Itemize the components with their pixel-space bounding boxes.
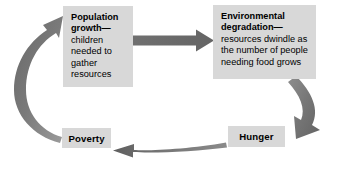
- node-population-growth: Population growth— children needed to ga…: [63, 6, 133, 87]
- node-population-growth-body: children needed to gather resources: [71, 35, 126, 81]
- arrow-population-to-environment: [133, 30, 214, 52]
- node-population-growth-title: Population growth—: [71, 12, 126, 35]
- node-environmental-degradation-title: Environmental degradation—: [221, 11, 309, 34]
- cycle-diagram: Population growth— children needed to ga…: [0, 0, 347, 169]
- node-poverty: Poverty: [62, 128, 111, 148]
- node-hunger: Hunger: [228, 126, 285, 147]
- arrow-environment-to-hunger: [288, 76, 320, 139]
- arrow-hunger-to-poverty: [113, 143, 227, 158]
- node-environmental-degradation-body: resources dwindle as the number of peopl…: [221, 34, 309, 68]
- node-environmental-degradation: Environmental degradation— resources dwi…: [213, 5, 316, 79]
- node-poverty-title: Poverty: [68, 133, 104, 144]
- arrow-poverty-to-population: [14, 16, 63, 143]
- node-hunger-title: Hunger: [239, 131, 273, 142]
